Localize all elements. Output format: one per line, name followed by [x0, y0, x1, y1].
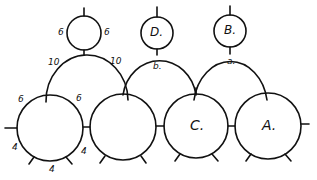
label-b-lower: b. — [153, 62, 162, 71]
label-bottom-4b: 4 — [81, 147, 87, 156]
label-d: D. — [150, 26, 163, 38]
label-bottom-6b: 6 — [76, 94, 82, 103]
label-bottom-4c: 4 — [49, 165, 55, 174]
bottom-circle-2 — [83, 94, 156, 163]
top-left-circle — [67, 8, 101, 55]
label-bottom-6a: 6 — [18, 95, 24, 104]
arch-right — [194, 62, 267, 100]
label-a: A. — [262, 118, 276, 132]
label-arch-10b: 10 — [110, 57, 121, 66]
label-a-lower: a. — [227, 57, 235, 66]
diagram-canvas: 6 6 D. B. 10 10 b. a. 6 6 4 4 4 C. A. — [0, 0, 317, 180]
label-b: B. — [224, 24, 236, 36]
label-top-left-6a: 6 — [58, 28, 64, 37]
label-top-left-6b: 6 — [104, 28, 110, 37]
bottom-circle-1 — [5, 95, 83, 164]
label-bottom-4a: 4 — [12, 143, 18, 152]
label-arch-10a: 10 — [48, 58, 59, 67]
label-c: C. — [190, 118, 204, 132]
